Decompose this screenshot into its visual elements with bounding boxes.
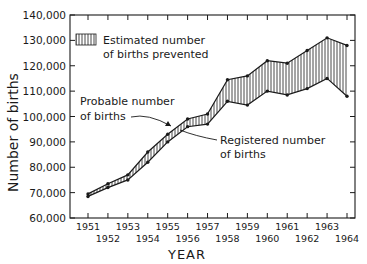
data-point <box>266 59 269 62</box>
x-tick-label: 1963 <box>315 221 339 232</box>
data-point <box>325 77 328 80</box>
data-point <box>186 125 189 128</box>
data-point <box>345 95 348 98</box>
annotation-registered-line2: of births <box>220 148 266 161</box>
annotation-probable-line1: Probable number <box>80 95 175 108</box>
data-point <box>206 122 209 125</box>
annotation-registered: Registered number of births <box>180 130 326 161</box>
annotation-registered-leader <box>180 130 217 140</box>
births-chart: 60,00070,00080,00090,000100,000110,00012… <box>0 0 367 264</box>
annotation-registered-line1: Registered number <box>220 134 326 147</box>
y-tick-label: 70,000 <box>29 187 66 199</box>
legend-label-line2: of births prevented <box>103 48 209 61</box>
y-tick-label: 80,000 <box>29 161 66 173</box>
y-tick-label: 140,000 <box>23 9 66 21</box>
data-point <box>266 89 269 92</box>
x-tick-label: 1958 <box>215 233 239 244</box>
x-tick-label: 1952 <box>96 233 120 244</box>
data-point <box>186 117 189 120</box>
data-point <box>345 44 348 47</box>
legend-swatch <box>76 34 96 45</box>
x-tick-label: 1956 <box>176 233 200 244</box>
y-tick-label: 60,000 <box>29 212 66 224</box>
y-axis-title: Number of births <box>5 73 21 192</box>
data-point <box>305 87 308 90</box>
x-axis-title: YEAR <box>167 247 206 262</box>
x-tick-label: 1951 <box>76 221 100 232</box>
legend: Estimated number of births prevented <box>76 34 209 61</box>
data-point <box>106 186 109 189</box>
annotation-probable-line2: of births <box>80 110 126 123</box>
data-point <box>226 100 229 103</box>
births-prevented-area <box>88 38 347 197</box>
x-tick-label: 1961 <box>275 221 299 232</box>
data-point <box>286 62 289 65</box>
data-point <box>106 182 109 185</box>
x-tick-label: 1955 <box>156 221 180 232</box>
data-point <box>146 160 149 163</box>
x-tick-label: 1957 <box>195 221 219 232</box>
data-point <box>286 93 289 96</box>
data-point <box>246 74 249 77</box>
x-tick-label: 1954 <box>136 233 160 244</box>
x-tick-label: 1962 <box>295 233 319 244</box>
data-point <box>226 78 229 81</box>
annotation-probable: Probable number of births <box>80 95 175 126</box>
data-point <box>166 140 169 143</box>
y-tick-label: 130,000 <box>23 34 66 46</box>
x-tick-label: 1964 <box>335 233 359 244</box>
data-point <box>246 103 249 106</box>
y-tick-label: 100,000 <box>23 111 66 123</box>
x-tick-label: 1960 <box>255 233 279 244</box>
data-point <box>325 36 328 39</box>
x-tick-label: 1953 <box>116 221 140 232</box>
data-point <box>305 49 308 52</box>
x-tick-label: 1959 <box>235 221 259 232</box>
data-point <box>146 150 149 153</box>
y-tick-label: 90,000 <box>29 136 66 148</box>
data-point <box>126 178 129 181</box>
y-tick-label: 120,000 <box>23 60 66 72</box>
data-point <box>86 195 89 198</box>
legend-label-line1: Estimated number <box>103 34 205 47</box>
data-point <box>206 112 209 115</box>
y-tick-label: 110,000 <box>23 85 66 97</box>
data-point <box>126 173 129 176</box>
data-point <box>166 133 169 136</box>
annotation-probable-arrow <box>131 116 171 126</box>
